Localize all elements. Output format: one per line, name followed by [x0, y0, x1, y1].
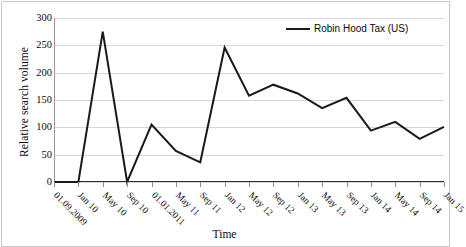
y-tick-label-200: 200 — [28, 68, 52, 78]
x-tick-2 — [103, 182, 104, 187]
x-tick-12 — [347, 182, 348, 187]
x-tick-label-15: Sep 14 — [418, 190, 444, 216]
x-tick-9 — [273, 182, 274, 187]
x-tick-15 — [420, 182, 421, 187]
x-tick-16 — [444, 182, 445, 187]
x-tick-14 — [395, 182, 396, 187]
x-tick-5 — [176, 182, 177, 187]
x-tick-7 — [225, 182, 226, 187]
x-tick-label-13: Jan 14 — [369, 190, 393, 214]
x-tick-label-2: May 10 — [101, 190, 129, 218]
y-tick-label-50: 50 — [28, 150, 52, 160]
x-tick-label-9: Sep 12 — [271, 190, 297, 216]
x-tick-label-11: May 13 — [320, 190, 348, 218]
x-tick-label-6: Sep 11 — [198, 190, 223, 215]
y-tick-label-150: 150 — [28, 95, 52, 105]
y-tick-label-300: 300 — [28, 13, 52, 23]
x-axis-title: Time — [0, 228, 449, 240]
x-tick-8 — [249, 182, 250, 187]
x-tick-label-0: 01.09.2009 — [52, 190, 89, 227]
x-tick-6 — [200, 182, 201, 187]
x-tick-label-10: Jan 13 — [296, 190, 320, 214]
x-tick-4 — [152, 182, 153, 187]
x-tick-label-7: Jan 12 — [223, 190, 247, 214]
x-tick-label-12: Sep 13 — [344, 190, 370, 216]
x-tick-label-14: May 14 — [393, 190, 421, 218]
x-tick-label-3: Sep 10 — [125, 190, 151, 216]
series-lines — [54, 18, 444, 182]
x-tick-label-4: 01.01.2011 — [149, 190, 186, 227]
x-tick-label-5: May 11 — [174, 190, 202, 218]
x-tick-label-8: May 12 — [247, 190, 275, 218]
x-tick-0 — [54, 182, 55, 187]
x-tick-label-1: Jan 10 — [76, 190, 100, 214]
x-tick-11 — [322, 182, 323, 187]
series-line-0 — [54, 32, 444, 182]
chart-legend: Robin Hood Tax (US) — [286, 23, 408, 34]
plot-area — [54, 18, 444, 182]
x-tick-10 — [298, 182, 299, 187]
x-tick-3 — [127, 182, 128, 187]
x-tick-label-16: Jan 15 — [442, 190, 466, 214]
y-axis-tick-labels: 050100150200250300 — [28, 10, 52, 190]
x-tick-13 — [371, 182, 372, 187]
legend-label-robin-hood-tax-us: Robin Hood Tax (US) — [314, 23, 408, 34]
x-tick-1 — [78, 182, 79, 187]
legend-swatch-robin-hood-tax-us — [286, 28, 310, 30]
x-axis-ticks — [54, 182, 444, 187]
y-tick-label-0: 0 — [28, 177, 52, 187]
y-tick-label-100: 100 — [28, 122, 52, 132]
y-tick-label-250: 250 — [28, 40, 52, 50]
